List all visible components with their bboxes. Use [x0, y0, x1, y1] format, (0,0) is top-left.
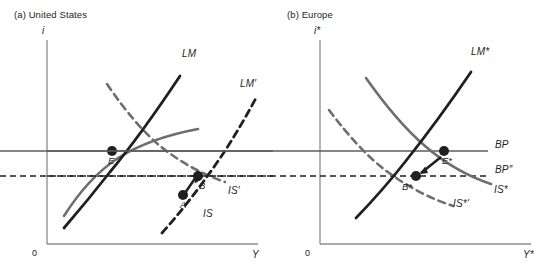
panel-a-is-label: IS — [203, 208, 213, 219]
panel-a-lm-prime-label: LM′ — [240, 78, 256, 89]
panel-a-y-axis-label: i — [42, 25, 44, 36]
panel-b-is-star-prime-label: IS*′ — [453, 198, 469, 209]
panel-a-origin-label: 0 — [32, 248, 37, 258]
panel-a-point-e-label: E — [108, 155, 114, 166]
panel-b-bp-label: BP — [495, 139, 509, 150]
panel-a-x-axis-label: Y — [252, 249, 259, 260]
panel-b-point-b-star-dot — [411, 171, 421, 181]
panel-b-y-axis-label: i* — [314, 25, 320, 36]
panel-a-point-b-label: B — [199, 180, 205, 191]
panel-united-states: (a) United States — [0, 0, 273, 275]
panel-b-origin-label: 0 — [305, 248, 310, 258]
panel-a-lm-label: LM — [182, 48, 196, 59]
panel-b-lm-star-label: LM* — [471, 46, 489, 57]
panel-b-point-b-star-label: B* — [402, 181, 412, 192]
panel-a-plot — [0, 0, 273, 275]
panel-a-lm-curve — [64, 76, 180, 228]
panel-b-bp-prime-label: BP″ — [495, 164, 512, 175]
panel-b-plot — [273, 0, 546, 275]
panel-b-point-e-star-label: E* — [442, 155, 452, 166]
panel-a-is-prime-label: IS′ — [228, 185, 240, 196]
panel-a-point-a-label: A — [180, 199, 186, 210]
panel-b-is-star-label: IS* — [494, 184, 508, 195]
panel-b-lm-star-curve — [356, 72, 471, 218]
panel-europe: (b) Europe i* Y* 0 LM* — [273, 0, 546, 275]
isml-bp-figure: (a) United States — [0, 0, 546, 275]
panel-b-x-axis-label: Y* — [523, 249, 534, 260]
